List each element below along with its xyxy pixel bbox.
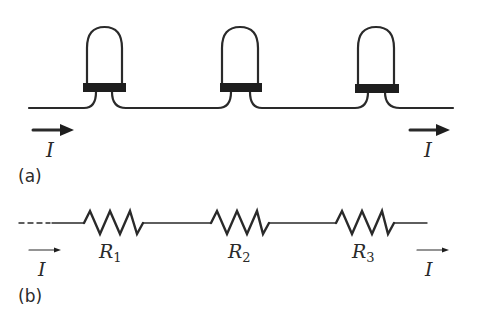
resistor-subscript: 3: [366, 250, 374, 265]
bulb-1: [83, 27, 126, 92]
wire-segment: [385, 92, 453, 108]
bulb-base-icon: [83, 83, 126, 92]
current-label-out: I: [424, 258, 433, 280]
resistor-r1-icon: [84, 211, 143, 234]
bulb-3: [355, 27, 399, 93]
wire-segment: [112, 92, 231, 108]
resistor-r2-icon: [211, 211, 269, 234]
resistor-subscript: 1: [113, 250, 121, 265]
bulb-2: [220, 27, 262, 92]
current-arrow-out-icon: [410, 124, 450, 136]
resistor-symbol: R: [227, 240, 242, 262]
current-label-in: I: [45, 138, 55, 162]
bulb-glass-icon: [87, 27, 122, 86]
bulb-glass-icon: [222, 27, 258, 86]
current-arrow-in-icon: [33, 124, 74, 136]
current-arrow-out-icon: [417, 248, 449, 253]
series-circuit-diagram: I I (a) R1 R2 R3 I I (b): [0, 0, 478, 326]
bulb-base-icon: [355, 84, 399, 93]
current-arrow-in-icon: [29, 248, 61, 253]
current-label-out: I: [423, 138, 433, 162]
resistor-r3-icon: [336, 211, 394, 234]
resistor-label-r1: R1: [98, 240, 122, 265]
resistor-label-r2: R2: [227, 240, 251, 265]
bulb-base-icon: [220, 83, 262, 92]
resistor-label-r3: R3: [351, 240, 375, 265]
wire-segment: [250, 92, 368, 108]
panel-b-label: (b): [18, 286, 42, 306]
panel-a: [29, 27, 453, 136]
resistor-symbol: R: [98, 240, 113, 262]
resistor-symbol: R: [351, 240, 366, 262]
panel-a-label: (a): [18, 166, 42, 186]
wire-segment: [29, 92, 96, 108]
current-label-in: I: [37, 258, 46, 280]
bulb-glass-icon: [358, 27, 394, 86]
resistor-subscript: 2: [242, 250, 250, 265]
